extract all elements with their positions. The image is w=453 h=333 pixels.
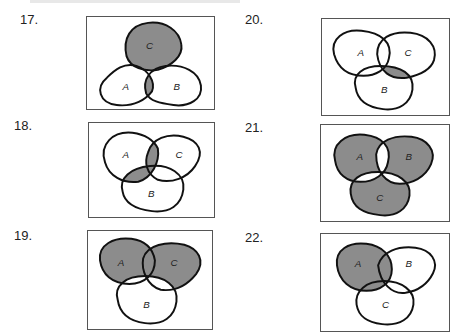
exercise-number-21: 21. [245,120,263,135]
label-a: A [354,258,362,269]
label-a: A [122,81,130,92]
label-c: C [382,299,390,310]
venn-diagram-18: A C B [88,122,215,218]
venn-19-graphic: A C B [88,231,212,329]
label-b: B [143,299,150,310]
exercise-number-18: 18. [14,118,32,133]
label-a: A [357,47,365,58]
exercise-number-20: 20. [245,12,263,27]
venn-20-graphic: A C B [322,19,449,115]
venn-diagram-20: A C B [321,18,450,116]
label-b: B [406,151,413,162]
label-c: C [171,257,179,268]
label-b: B [148,188,155,199]
label-b: B [381,84,388,95]
venn-21-graphic: A B C [321,125,449,221]
venn-17-graphic: C A B [87,17,214,109]
label-a: A [122,149,130,160]
venn-diagram-19: A C B [87,230,213,330]
exercise-number-19: 19. [14,228,32,243]
label-c: C [175,149,183,160]
exercise-number-17: 17. [20,12,38,27]
label-c: C [376,192,384,203]
venn-diagram-17: C A B [86,16,215,110]
label-b: B [406,258,413,269]
label-a: A [356,151,364,162]
venn-18-graphic: A C B [89,123,214,217]
venn-diagram-21: A B C [320,124,450,222]
label-c: C [405,47,413,58]
venn-diagram-22: A B C [320,233,450,332]
exercise-number-22: 22. [245,230,263,245]
label-a: A [117,257,125,268]
label-b: B [174,81,181,92]
label-c: C [146,40,154,51]
venn-22-graphic: A B C [321,234,449,331]
clipped-heading [30,0,240,3]
